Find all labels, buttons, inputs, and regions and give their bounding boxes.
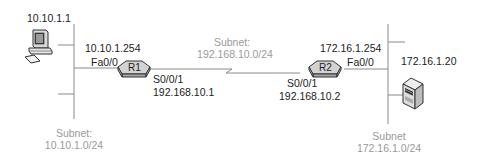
wan-subnet-title: Subnet: <box>192 36 272 48</box>
r2-fa-interface-label: Fa0/0 <box>347 56 374 68</box>
wan-subnet-network: 192.168.10.0/24 <box>192 48 278 60</box>
r1-serial-ip-label: 192.168.10.1 <box>153 86 214 98</box>
r1-fa-ip-label: 10.10.1.254 <box>85 42 140 54</box>
right-subnet-network: 172.16.1.0/24 <box>349 142 429 154</box>
r2-fa-ip-label: 172.16.1.254 <box>320 42 381 54</box>
router-r1-icon[interactable]: R1 <box>114 58 154 80</box>
router-r2-name: R2 <box>319 62 332 73</box>
r1-serial-interface-label: S0/0/1 <box>153 73 183 85</box>
server-ip-label: 172.16.1.20 <box>401 55 456 67</box>
left-subnet-title: Subnet: <box>38 127 110 139</box>
r2-serial-interface-label: S0/0/1 <box>287 77 317 89</box>
network-topology-diagram: 10.10.1.1 10.10.1.254 Fa0/0 R1 S0/0/1 19… <box>0 0 477 162</box>
right-subnet-title: Subnet <box>349 130 429 142</box>
pc-ip-label: 10.10.1.1 <box>27 12 71 24</box>
router-r1-name: R1 <box>128 62 141 73</box>
desktop-pc-icon[interactable] <box>18 26 62 70</box>
left-subnet-network: 10.10.1.0/24 <box>38 139 110 151</box>
r2-serial-ip-label: 192.168.10.2 <box>279 90 340 102</box>
server-icon[interactable] <box>401 76 425 112</box>
